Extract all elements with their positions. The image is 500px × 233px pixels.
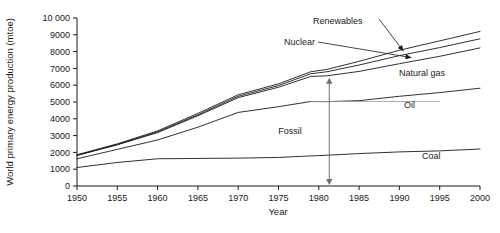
energy-production-chart: World primary energy production (mtoe) 0… (0, 0, 500, 233)
y-tick-label: 3000 (50, 131, 70, 141)
annotation-label-fossil: Fossil (278, 126, 302, 136)
x-tick-label: 1965 (188, 193, 208, 203)
series-label-oil: Oil (404, 100, 415, 110)
x-tick-label: 1950 (67, 193, 87, 203)
y-tick-label: 7000 (50, 64, 70, 74)
y-tick-label: 8000 (50, 47, 70, 57)
x-tick-label: 1985 (349, 193, 369, 203)
series-label-natural-gas: Natural gas (399, 68, 446, 78)
x-tick-label: 1970 (228, 193, 248, 203)
series-label-coal: Coal (422, 151, 441, 161)
y-tick-label: 4000 (50, 114, 70, 124)
x-tick-label: 1960 (148, 193, 168, 203)
x-tick-label: 1955 (107, 193, 127, 203)
x-tick-label: 1980 (309, 193, 329, 203)
x-axis-title: Year (268, 206, 287, 217)
y-tick-label: 2000 (50, 148, 70, 158)
x-tick-label: 1995 (430, 193, 450, 203)
y-tick-label: 1000 (50, 164, 70, 174)
x-tick-label: 1975 (268, 193, 288, 203)
y-tick-label: 10 000 (42, 13, 70, 23)
chart-container: World primary energy production (mtoe) 0… (0, 0, 500, 233)
x-tick-label: 2000 (470, 193, 490, 203)
series-label-renewables: Renewables (313, 16, 363, 26)
x-tick-label: 1990 (389, 193, 409, 203)
y-axis-title: World primary energy production (mtoe) (4, 18, 15, 186)
y-tick-label: 5000 (50, 97, 70, 107)
y-tick-label: 9000 (50, 30, 70, 40)
series-label-nuclear: Nuclear (284, 37, 315, 47)
y-tick-label: 6000 (50, 80, 70, 90)
y-tick-label: 0 (65, 181, 70, 191)
